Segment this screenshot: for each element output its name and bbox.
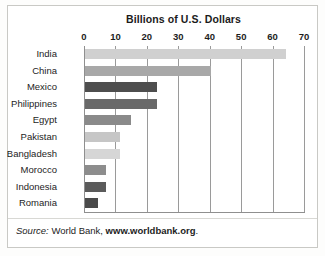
- x-tick-label-10: 10: [110, 31, 121, 42]
- category-label-mexico: Mexico: [0, 79, 57, 96]
- bar-egypt: [85, 115, 131, 125]
- bar-china: [85, 66, 211, 76]
- source-prefix: Source:: [16, 225, 49, 236]
- chart-title: Billions of U.S. Dollars: [0, 13, 325, 25]
- bar-row: Morocco: [84, 162, 304, 179]
- bar-mexico: [85, 82, 157, 92]
- category-label-morocco: Morocco: [0, 162, 57, 179]
- bar-row: India: [84, 46, 304, 63]
- category-label-bangladesh: Bangladesh: [0, 146, 57, 163]
- chart-page: Billions of U.S. Dollars 010203040506070…: [0, 0, 325, 256]
- x-axis-baseline: [84, 212, 305, 213]
- bar-row: Bangladesh: [84, 146, 304, 163]
- x-tick-label-20: 20: [142, 31, 153, 42]
- bar-bangladesh: [85, 149, 120, 159]
- x-tick-label-30: 30: [173, 31, 184, 42]
- bar-row: Pakistan: [84, 129, 304, 146]
- category-label-india: India: [0, 46, 57, 63]
- bar-row: Romania: [84, 195, 304, 212]
- category-label-philippines: Philippines: [0, 96, 57, 113]
- bar-morocco: [85, 165, 106, 175]
- x-tick-label-40: 40: [204, 31, 215, 42]
- source-divider: [8, 218, 317, 219]
- source-url-link[interactable]: www.worldbank.org: [106, 225, 196, 236]
- source-publisher: World Bank,: [51, 225, 103, 236]
- category-label-indonesia: Indonesia: [0, 179, 57, 196]
- x-tick-label-70: 70: [299, 31, 310, 42]
- category-label-pakistan: Pakistan: [0, 129, 57, 146]
- bar-philippines: [85, 99, 157, 109]
- bar-india: [85, 49, 286, 59]
- category-label-egypt: Egypt: [0, 112, 57, 129]
- source-note: Source: World Bank, www.worldbank.org.: [16, 225, 198, 236]
- x-tick-label-0: 0: [81, 31, 86, 42]
- source-suffix: .: [196, 225, 199, 236]
- bar-row: Egypt: [84, 112, 304, 129]
- x-tick-label-60: 60: [267, 31, 278, 42]
- bar-row: Mexico: [84, 79, 304, 96]
- bar-pakistan: [85, 132, 120, 142]
- bar-row: Philippines: [84, 96, 304, 113]
- category-label-romania: Romania: [0, 195, 57, 212]
- bar-romania: [85, 198, 98, 208]
- bar-row: Indonesia: [84, 179, 304, 196]
- plot-area: IndiaChinaMexicoPhilippinesEgyptPakistan…: [84, 46, 304, 212]
- bar-indonesia: [85, 182, 106, 192]
- x-tick-label-50: 50: [236, 31, 247, 42]
- bar-row: China: [84, 63, 304, 80]
- category-label-china: China: [0, 63, 57, 80]
- gridline-70: [304, 46, 305, 212]
